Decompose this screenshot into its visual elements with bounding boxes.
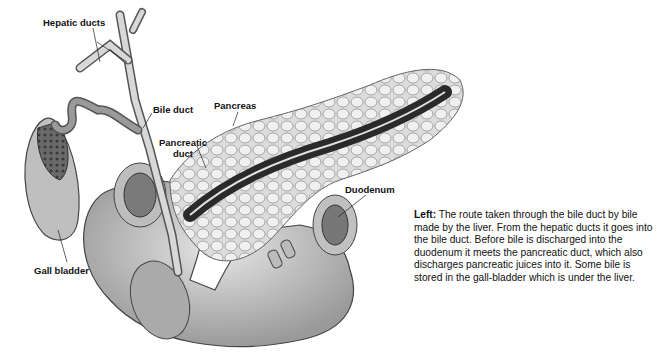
label-pancreas: Pancreas [214, 100, 256, 111]
label-hepatic-ducts: Hepatic ducts [43, 17, 105, 28]
anatomy-illustration [0, 0, 659, 363]
figure-caption: Left: The route taken through the bile d… [414, 209, 654, 285]
gall-bladder-shape [25, 118, 79, 240]
caption-lead: Left: [414, 209, 436, 220]
label-pancreatic-duct: Pancreatic duct [158, 137, 208, 159]
label-pancreatic-duct-line1: Pancreatic [158, 137, 208, 148]
label-bile-duct: Bile duct [153, 104, 193, 115]
label-gall-bladder: Gall bladder [34, 265, 89, 276]
label-pancreatic-duct-line2: duct [158, 148, 208, 159]
caption-text: The route taken through the bile duct by… [414, 209, 652, 283]
label-duodenum: Duodenum [345, 184, 395, 195]
